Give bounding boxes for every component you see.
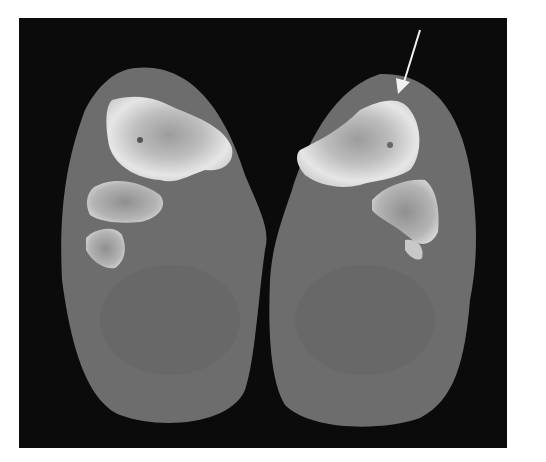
- ct-scan-image: [19, 18, 507, 448]
- ct-image-frame: [19, 18, 507, 448]
- right-foot: [269, 74, 476, 427]
- right-talus-bone: [297, 101, 419, 187]
- left-foot: [61, 67, 266, 422]
